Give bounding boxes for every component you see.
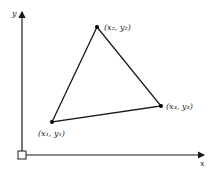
vertex-3-point — [159, 104, 163, 108]
triangle — [52, 27, 161, 122]
origin-square-icon — [18, 151, 26, 159]
vertex-2-point — [95, 25, 99, 29]
vertex-1-point — [50, 120, 54, 124]
y-axis-label: y — [11, 9, 17, 18]
triangle-diagram: y x (x₁, y₁) (x₂, y₂) (x₃, y₃) — [0, 0, 214, 173]
vertex-2-label: (x₂, y₂) — [104, 23, 131, 32]
vertex-1-label: (x₁, y₁) — [38, 129, 65, 138]
x-axis-label: x — [200, 159, 205, 168]
vertex-3-label: (x₃, y₃) — [166, 102, 193, 111]
